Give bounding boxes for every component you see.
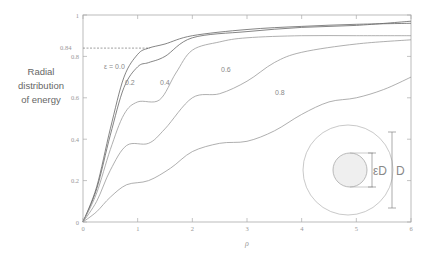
curve-label-eps-0: ε = 0.0 [104,63,125,70]
eps-d-label: εD [373,164,387,178]
curve-label-eps-0.2: 0.2 [125,79,135,86]
x-axis-label: ρ [244,239,249,248]
y-tick-label: 0.6 [71,94,80,101]
curve-0.6 [83,40,411,222]
curve-0.8 [83,77,411,222]
curve-labels: ε = 0.0 0.2 0.4 0.6 0.8 [104,63,285,96]
curve-label-eps-0.6: 0.6 [221,66,231,73]
x-tick-label: 4 [300,225,304,232]
y-tick-label: 1 [76,12,79,19]
plot-frame [83,15,411,222]
x-axis: 0123456 [82,15,414,232]
y-tick-label: 0 [76,219,79,226]
chart-plot: 0123456 00.20.40.60.81 0.84 ε = 0.0 0.2 … [0,0,426,256]
aperture-inset-diagram: εD D [303,125,405,215]
x-tick-label: 1 [136,225,139,232]
y-tick-label: 0.2 [71,177,79,184]
y-tick-label: 0.4 [71,136,80,143]
x-tick-label: 3 [246,225,249,232]
reference-line-0.84: 0.84 [60,44,150,51]
y-tick-label: 0.8 [71,53,79,60]
x-tick-label: 0 [82,225,85,232]
x-tick-label: 5 [355,225,358,232]
curve-0.0 [83,23,411,222]
inner-obscuration-disk [333,153,367,187]
curve-label-eps-0.8: 0.8 [275,89,285,96]
curves [83,21,411,222]
reference-line-label: 0.84 [60,44,72,51]
curve-0.2 [83,21,411,222]
plot-border [83,15,411,222]
x-tick-label: 6 [410,225,414,232]
x-tick-label: 2 [191,225,194,232]
d-label: D [396,164,405,178]
curve-0.4 [83,36,411,222]
curve-label-eps-0.4: 0.4 [160,79,170,86]
